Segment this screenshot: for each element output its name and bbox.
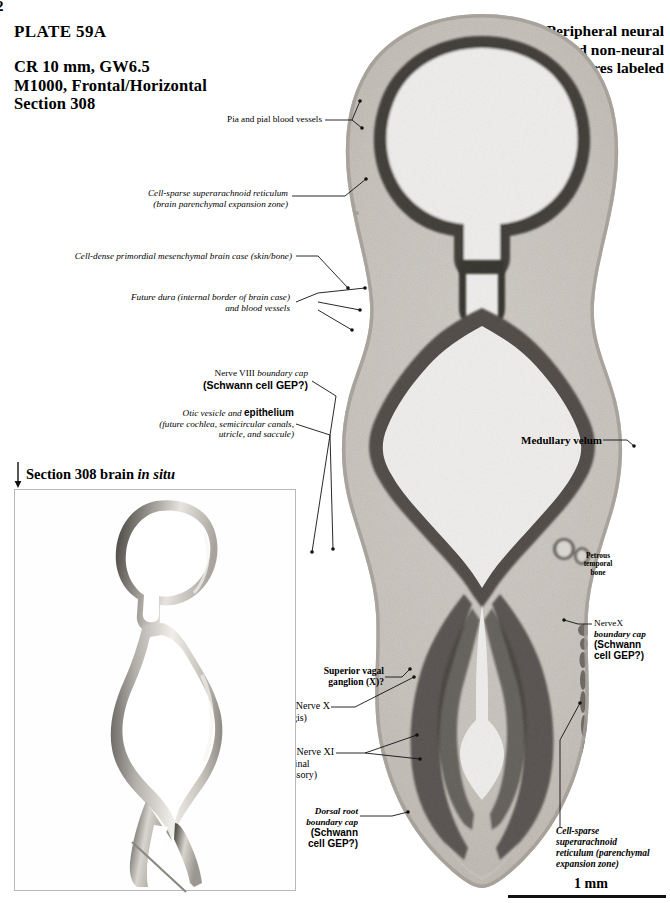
- label-future-dura-line-2: and blood vessels: [78, 303, 290, 314]
- label-cell-sparse-bottom-line-3: reticulum (parenchymal: [556, 848, 670, 859]
- scale-bar-label: 1 mm: [574, 876, 608, 892]
- label-nerve-x-bc-line-4: cell GEP?): [594, 650, 670, 661]
- label-otic-vesicle: Otic vesicle and epithelium (future coch…: [60, 408, 294, 440]
- label-pia-blood-vessels: Pia and pial blood vessels: [150, 114, 322, 125]
- label-nerve-viii-boundary-cap: Nerve VIII boundary cap (Schwann cell GE…: [130, 368, 308, 391]
- label-cell-sparse-reticulum-line-2: (brain parenchymal expansion zone): [80, 199, 288, 210]
- inset-title-prefix: Section 308 brain: [26, 466, 138, 482]
- label-nerve-viii-line-1: Nerve VIII boundary cap: [130, 368, 308, 379]
- label-petrous-line-3: bone: [568, 569, 628, 577]
- label-petrous-temporal-bone: Petrous temporal bone: [568, 552, 628, 577]
- label-cell-sparse-reticulum-line-1: Cell-sparse superarachnoid reticulum: [80, 188, 288, 199]
- inset-title-emphasis: in situ: [138, 466, 175, 482]
- label-otic-vesicle-line-2: (future cochlea, semicircular canals,: [60, 419, 294, 430]
- label-nerve-viii-line-2: (Schwann cell GEP?): [130, 379, 308, 391]
- label-nerve-viii-prefix: Nerve VIII: [215, 368, 258, 378]
- label-medullary-velum: Medullary velum: [470, 435, 602, 446]
- label-cell-sparse-bottom: Cell-sparse superarachnoid reticulum (pa…: [556, 826, 670, 870]
- label-medullary-velum-text: Medullary velum: [521, 434, 602, 446]
- label-future-dura: Future dura (internal border of brain ca…: [78, 292, 290, 313]
- label-otic-vesicle-emphasis: Otic vesicle and: [183, 408, 244, 418]
- label-nerve-x-boundary-cap: NerveX boundary cap (Schwann cell GEP?): [594, 618, 670, 661]
- label-cell-sparse-bottom-line-4: expansion zone): [556, 859, 670, 870]
- label-nerve-viii-emphasis: boundary cap: [257, 368, 308, 378]
- label-superior-vagal-line-2: ganglion (X)?: [282, 676, 384, 687]
- inset-pointer-line: [130, 840, 210, 896]
- inset-title: Section 308 brain in situ: [26, 466, 175, 483]
- scale-bar: [508, 895, 666, 898]
- label-superior-vagal-ganglion: Superior vagal ganglion (X)?: [282, 665, 384, 687]
- label-superior-vagal-line-1: Superior vagal: [282, 665, 384, 676]
- label-nerve-x-bc-line-2: boundary cap: [594, 629, 670, 640]
- label-pia-blood-vessels-text: Pia and pial blood vessels: [227, 114, 322, 124]
- label-nerve-x-bc-line-1: NerveX: [594, 618, 670, 629]
- label-cell-sparse-bottom-line-2: superarachnoid: [556, 837, 670, 848]
- label-cell-sparse-bottom-line-1: Cell-sparse: [556, 826, 670, 837]
- label-otic-vesicle-line-1: Otic vesicle and epithelium: [60, 408, 294, 419]
- label-cell-dense-brain-case: Cell-dense primordial mesenchymal brain …: [14, 251, 292, 262]
- down-arrow-icon: [13, 462, 23, 488]
- label-cell-dense-brain-case-text: Cell-dense primordial mesenchymal brain …: [75, 251, 292, 261]
- label-otic-vesicle-epithelium: epithelium: [244, 407, 294, 418]
- label-otic-vesicle-line-3: utricle, and saccule): [60, 429, 294, 440]
- label-future-dura-line-1: Future dura (internal border of brain ca…: [78, 292, 290, 303]
- label-nerve-x-bc-line-3: (Schwann: [594, 639, 670, 650]
- label-cell-sparse-reticulum: Cell-sparse superarachnoid reticulum (br…: [80, 188, 288, 209]
- inset-panel: [14, 489, 296, 891]
